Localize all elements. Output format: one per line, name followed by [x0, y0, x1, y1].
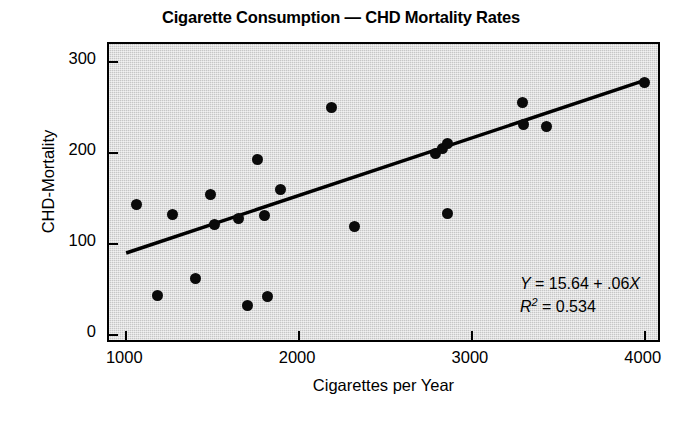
chart-figure: Cigarette Consumption — CHD Mortality Ra…: [0, 0, 682, 426]
data-point: [252, 154, 263, 165]
data-point: [167, 209, 178, 220]
r-squared-value: R2 = 0.534: [520, 295, 640, 318]
y-tick-label: 0: [30, 322, 96, 341]
x-tick-label: 4000: [598, 348, 682, 367]
y-tick-label: 200: [30, 140, 96, 159]
r-symbol: R: [520, 298, 532, 315]
y-axis-title: CHD-Mortality: [39, 52, 58, 312]
x-tick-label: 1000: [79, 348, 169, 367]
equation-body: = 15.64 + .06: [531, 275, 630, 292]
data-point: [517, 97, 528, 108]
equation-y-symbol: Y: [520, 275, 531, 292]
data-point: [518, 119, 529, 130]
r-squared-number: = 0.534: [538, 298, 596, 315]
y-tick-label: 100: [30, 231, 96, 250]
x-axis-title: Cigarettes per Year: [107, 376, 660, 395]
y-tick: [109, 152, 118, 154]
plot-area: Y = 15.64 + .06X R2 = 0.534: [107, 42, 660, 342]
data-point: [275, 184, 286, 195]
x-tick-label: 2000: [252, 348, 342, 367]
data-point: [442, 208, 453, 219]
data-point: [639, 77, 650, 88]
y-tick-label: 300: [30, 49, 96, 68]
x-tick: [471, 331, 473, 340]
x-tick: [644, 331, 646, 340]
data-point: [442, 138, 453, 149]
x-tick: [298, 331, 300, 340]
equation-x-symbol: X: [629, 275, 640, 292]
data-point: [242, 300, 253, 311]
y-tick: [109, 243, 118, 245]
x-tick-label: 3000: [425, 348, 515, 367]
data-point: [190, 273, 201, 284]
chart-title: Cigarette Consumption — CHD Mortality Ra…: [0, 8, 682, 27]
regression-equation: Y = 15.64 + .06X: [520, 273, 640, 295]
regression-annotation: Y = 15.64 + .06X R2 = 0.534: [520, 273, 640, 318]
data-point: [205, 189, 216, 200]
y-tick: [109, 61, 118, 63]
y-tick: [109, 334, 118, 336]
data-point: [541, 121, 552, 132]
x-tick: [125, 331, 127, 340]
